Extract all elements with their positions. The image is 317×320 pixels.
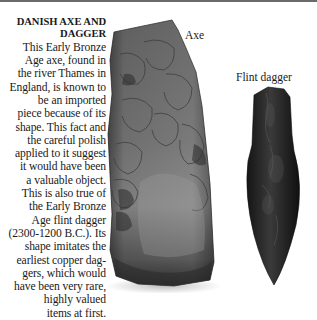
caption-line: gers, which would [0, 267, 106, 280]
caption-line: Age flint dagger [0, 214, 106, 227]
caption-line: highly valued [0, 293, 106, 306]
caption-line: the Early Bronze [0, 200, 106, 213]
caption-line: applied to it suggest [0, 147, 106, 160]
caption-line: a valuable object. [0, 174, 106, 187]
caption-line: have been very rare, [0, 280, 106, 293]
top-rule [0, 0, 317, 2]
dagger-label: Flint dagger [236, 71, 292, 83]
caption-line: This is also true of [0, 187, 106, 200]
caption-line: the river Thames in [0, 67, 106, 80]
caption-line: Age axe, found in [0, 54, 106, 67]
caption-line: piece because of its [0, 107, 106, 120]
caption-title-line: DANISH AXE AND [0, 16, 106, 28]
caption-block: DANISH AXE AND DAGGER This Early Bronze … [0, 16, 108, 320]
caption-body: This Early Bronze Age axe, found in the … [0, 41, 108, 320]
caption-line: shape imitates the [0, 240, 106, 253]
caption-line: it would have been [0, 160, 106, 173]
caption-line: earliest copper dag- [0, 254, 106, 267]
caption-line: be an imported [0, 94, 106, 107]
caption-line: the careful polish [0, 134, 106, 147]
caption-title-line: DAGGER [0, 28, 106, 40]
caption-line: items at first. [0, 307, 106, 320]
caption-line: (2300-1200 B.C.). Its [0, 227, 106, 240]
axe-label: Axe [185, 29, 204, 41]
caption-line: shape. This fact and [0, 121, 106, 134]
caption-line: England, is known to [0, 81, 106, 94]
caption-line: This Early Bronze [0, 41, 106, 54]
stone-axe-image [104, 14, 222, 293]
caption-title: DANISH AXE AND DAGGER [0, 16, 108, 41]
flint-dagger-image [240, 85, 306, 290]
